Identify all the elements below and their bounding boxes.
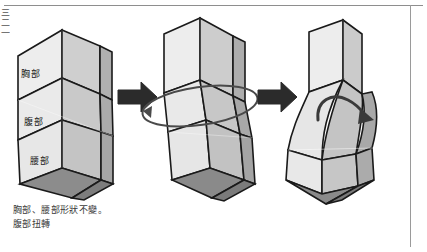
step-1-solid	[18, 30, 113, 200]
segment-label-chest: 胸部	[21, 69, 40, 79]
step-2-solid	[164, 18, 255, 201]
caption-line-2: 腹部扭轉	[13, 217, 263, 231]
figure-caption: 胸部、腰部形狀不變。 腹部扭轉	[13, 203, 263, 231]
segment-label-waist: 腰部	[30, 156, 49, 166]
caption-line-1: 胸部、腰部形狀不變。	[13, 203, 263, 217]
top-rule	[4, 5, 423, 6]
arrow-2-step-arrow	[258, 82, 297, 112]
segment-label-abdomen: 腹部	[24, 117, 43, 127]
torso-twist-illustration	[0, 8, 411, 208]
page-root: 三二一	[0, 0, 427, 252]
